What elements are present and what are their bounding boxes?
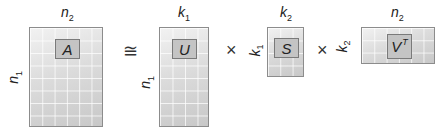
matrix-s-cols-label: k2 [280, 4, 292, 23]
matrix-u-block: U [172, 39, 197, 59]
matrix-a-rows-label: n1 [5, 71, 24, 84]
matrix-s-block: S [274, 38, 299, 58]
matrix-u-cols-label: k1 [178, 4, 190, 23]
matrix-u: U [159, 27, 209, 127]
matrix-a: A [29, 27, 103, 127]
matrix-a-block: A [55, 39, 80, 59]
multiply-sign-2: × [317, 40, 328, 61]
matrix-vt-rows-label: k2 [334, 40, 353, 52]
matrix-vt: VT [361, 27, 435, 64]
matrix-s: S [267, 27, 304, 77]
matrix-s-rows-label: k1 [247, 44, 266, 56]
matrix-vt-block: VT [387, 34, 412, 59]
approx-equal-sign: ≅ [123, 40, 138, 62]
multiply-sign-1: × [226, 40, 237, 61]
matrix-vt-cols-label: n2 [391, 4, 404, 23]
matrix-u-rows-label: n1 [137, 76, 156, 89]
matrix-a-cols-label: n2 [61, 4, 74, 23]
